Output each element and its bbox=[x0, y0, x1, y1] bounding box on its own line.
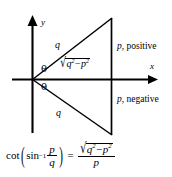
lower-hypotenuse-label: q bbox=[56, 108, 61, 118]
sin-function-name: sin bbox=[26, 150, 39, 161]
x-axis-arrowhead bbox=[148, 75, 158, 84]
upper-side-text: , positive bbox=[122, 41, 157, 51]
arcsin-argument-denominator: q bbox=[47, 156, 57, 168]
lower-side-label: p, negative bbox=[117, 95, 159, 105]
result-fraction: √q2−p2 p bbox=[78, 143, 115, 168]
upper-angle-theta-label: θ bbox=[41, 64, 47, 74]
equals-sign: = bbox=[67, 150, 73, 161]
y-axis-arrowhead bbox=[28, 15, 38, 26]
trigonometry-figure: y x θ θ q q √q2−p2 p, positive p, negati… bbox=[0, 0, 172, 177]
close-paren: ) bbox=[59, 144, 63, 167]
y-axis-label: y bbox=[41, 18, 45, 27]
upper-hypotenuse-label: q bbox=[55, 40, 60, 50]
arcsin-argument-fraction: p q bbox=[47, 144, 57, 168]
result-numerator: √q2−p2 bbox=[78, 143, 115, 156]
result-radicand-p-exponent: 2 bbox=[108, 142, 111, 149]
result-radicand-minus: − bbox=[96, 143, 103, 155]
identity-equation: cot ( sin−1 p q ) = √q2−p2 p bbox=[6, 143, 116, 168]
base-radicand: q2−p2 bbox=[65, 58, 90, 69]
lower-side-text: , negative bbox=[122, 94, 159, 104]
lower-angle-theta-label: θ bbox=[41, 82, 47, 92]
result-radical-expression: √q2−p2 bbox=[80, 143, 113, 155]
x-axis-label: x bbox=[150, 62, 154, 71]
upper-side-label: p, positive bbox=[117, 42, 157, 52]
base-radicand-p-exponent: 2 bbox=[86, 56, 89, 63]
arcsin-argument-numerator: p bbox=[47, 144, 57, 156]
base-radical-expression: √q2−p2 bbox=[60, 58, 90, 69]
open-paren: ( bbox=[21, 144, 25, 167]
result-radicand: q2−p2 bbox=[86, 143, 113, 155]
result-denominator: p bbox=[91, 157, 101, 169]
base-side-radical-label: √q2−p2 bbox=[60, 58, 90, 69]
cot-function-name: cot bbox=[6, 150, 19, 161]
